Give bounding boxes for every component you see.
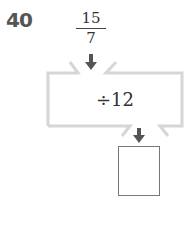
down-arrow-icon [85, 54, 97, 70]
answer-box[interactable] [118, 146, 160, 196]
operation-label: ÷12 [47, 72, 183, 126]
down-arrow-icon [133, 128, 145, 143]
